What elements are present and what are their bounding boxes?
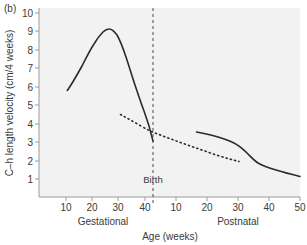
birth-label: Birth: [143, 174, 163, 185]
y-tick-group: [35, 13, 39, 179]
chart-canvas: 10 9 8 7 6 5 4 3 2 1 C–h length velocity…: [0, 0, 307, 245]
y-tick-label: 6: [27, 82, 33, 93]
x-tick-label-postnatal: 30: [232, 202, 244, 213]
x-tick-label-postnatal: 50: [294, 202, 306, 213]
x-tick-label-postnatal: 20: [201, 202, 213, 213]
y-tick-label: 3: [27, 137, 33, 148]
y-tick-label: 8: [27, 45, 33, 56]
y-axis-title: C–h length velocity (cm/4 weeks): [4, 30, 15, 177]
x-tick-label-gestational: 40: [139, 202, 151, 213]
x-tick-label-gestational: 20: [86, 202, 98, 213]
figure-panel: (b) 10 9 8 7 6 5 4 3 2 1 C–h: [0, 0, 307, 245]
x-tick-label-gestational: 30: [112, 202, 124, 213]
x-tick-group-postnatal: [176, 197, 300, 201]
y-tick-label: 1: [27, 174, 33, 185]
x-axis-title: Age (weeks): [142, 231, 198, 242]
y-tick-label: 9: [27, 26, 33, 37]
x-group-label-gestational: Gestational: [78, 216, 129, 227]
x-tick-group-gestational: [66, 197, 145, 201]
y-tick-label: 2: [27, 156, 33, 167]
x-tick-label-gestational: 10: [60, 202, 72, 213]
x-tick-label-postnatal: 10: [170, 202, 182, 213]
x-tick-label-postnatal: 40: [263, 202, 275, 213]
plot-background: [39, 8, 300, 197]
y-tick-label: 4: [27, 119, 33, 130]
y-tick-label: 7: [27, 63, 33, 74]
y-tick-label: 5: [27, 100, 33, 111]
x-group-label-postnatal: Postnatal: [217, 216, 259, 227]
y-tick-label: 10: [22, 8, 34, 19]
